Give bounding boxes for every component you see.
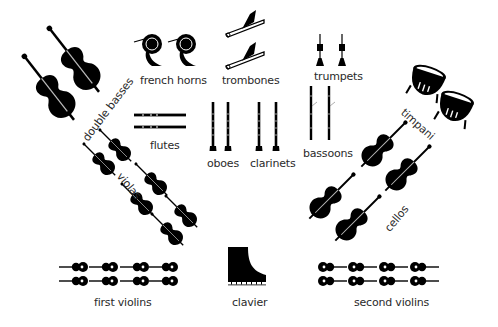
flute-icon <box>132 112 188 118</box>
label-cellos: cellos <box>382 203 411 234</box>
clarinet-icon <box>253 98 265 154</box>
label-french-horns: french horns <box>140 74 207 87</box>
oboe-icon <box>222 98 234 154</box>
trombone-icon <box>218 14 274 40</box>
bassoon-icon <box>304 84 318 144</box>
timpani-icon <box>432 88 476 132</box>
french-horn-icon <box>130 30 166 70</box>
label-clarinets: clarinets <box>250 157 295 170</box>
french-horn-icon <box>164 30 200 70</box>
label-trumpets: trumpets <box>314 70 363 83</box>
label-first-violins: first violins <box>94 296 152 309</box>
label-trombones: trombones <box>222 74 279 87</box>
clavier-icon <box>226 245 268 287</box>
flute-icon <box>132 124 188 130</box>
label-flutes: flutes <box>150 139 180 152</box>
bassoon-icon <box>322 84 336 144</box>
label-oboes: oboes <box>207 157 239 170</box>
oboe-icon <box>207 98 219 154</box>
viola-icon <box>150 212 190 252</box>
first-violins-group <box>56 258 186 288</box>
label-bassoons: bassoons <box>303 147 353 160</box>
trumpet-icon <box>334 30 350 70</box>
label-second-violins: second violins <box>354 296 429 309</box>
second-violins-group <box>320 258 450 288</box>
clarinet-icon <box>270 98 282 154</box>
trombone-icon <box>218 46 274 72</box>
cello-icon <box>326 194 382 250</box>
trumpet-icon <box>312 30 328 70</box>
cello-icon <box>376 144 432 200</box>
label-clavier: clavier <box>232 296 267 309</box>
double-bass-icon <box>15 58 85 128</box>
